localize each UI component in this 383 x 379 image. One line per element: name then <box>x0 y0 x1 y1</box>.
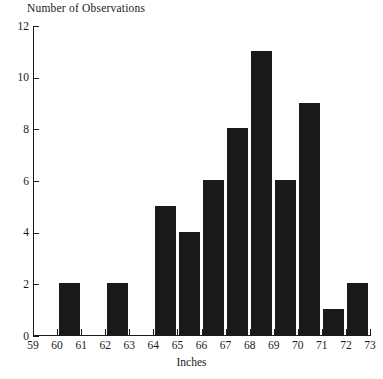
y-tick-0: 0 <box>33 336 39 337</box>
y-tick-4: 4 <box>33 233 39 234</box>
x-tick-label-64: 64 <box>148 340 160 352</box>
x-tick-label-70: 70 <box>292 340 304 352</box>
x-tick-label-66: 66 <box>196 340 208 352</box>
x-tick-label-73: 73 <box>364 340 376 352</box>
y-tick-12: 12 <box>33 26 39 27</box>
x-tick-label-72: 72 <box>340 340 352 352</box>
bar-62-63 <box>107 283 128 335</box>
bar-69-70 <box>275 180 296 335</box>
x-tick-label-61: 61 <box>75 340 87 352</box>
histogram-figure: Number of Observations 024681012 5960616… <box>0 0 383 379</box>
y-tick-mark <box>34 181 39 182</box>
x-tick-label-71: 71 <box>316 340 328 352</box>
y-tick-label: 2 <box>23 279 29 291</box>
x-axis-line <box>33 335 371 336</box>
x-tick-label-65: 65 <box>172 340 184 352</box>
bar-72-73 <box>347 283 368 335</box>
y-tick-6: 6 <box>33 181 39 182</box>
y-tick-10: 10 <box>33 78 39 79</box>
y-tick-mark <box>34 336 39 337</box>
bar-71-72 <box>323 309 344 335</box>
x-tick-label-62: 62 <box>99 340 111 352</box>
y-tick-label: 4 <box>23 227 29 239</box>
y-tick-8: 8 <box>33 129 39 130</box>
x-tick-label-67: 67 <box>220 340 232 352</box>
y-tick-label: 8 <box>23 124 29 136</box>
y-tick-label: 6 <box>23 176 29 188</box>
bar-66-67 <box>203 180 224 335</box>
x-axis-title: Inches <box>0 356 383 368</box>
y-axis-title: Number of Observations <box>27 2 145 14</box>
bar-64-65 <box>155 206 176 335</box>
bar-68-69 <box>251 51 272 335</box>
bar-60-61 <box>59 283 80 335</box>
y-tick-mark <box>34 284 39 285</box>
x-tick-label-60: 60 <box>51 340 63 352</box>
x-tick-label-69: 69 <box>268 340 280 352</box>
x-tick-mark-73 <box>370 329 371 335</box>
x-tick-label-59: 59 <box>27 340 39 352</box>
x-tick-mark-59 <box>33 329 34 335</box>
x-tick-mark-63 <box>129 329 130 335</box>
plot-area: 024681012 596061626364656667686970717273 <box>33 26 370 336</box>
y-tick-2: 2 <box>33 284 39 285</box>
y-tick-label: 12 <box>18 21 30 33</box>
x-tick-mark-61 <box>81 329 82 335</box>
y-tick-mark <box>34 78 39 79</box>
y-tick-mark <box>34 26 39 27</box>
y-tick-mark <box>34 129 39 130</box>
bar-65-66 <box>179 232 200 335</box>
y-tick-label: 10 <box>18 72 30 84</box>
x-tick-label-68: 68 <box>244 340 256 352</box>
bar-70-71 <box>299 103 320 336</box>
bar-67-68 <box>227 128 248 335</box>
x-tick-label-63: 63 <box>124 340 136 352</box>
y-tick-mark <box>34 233 39 234</box>
